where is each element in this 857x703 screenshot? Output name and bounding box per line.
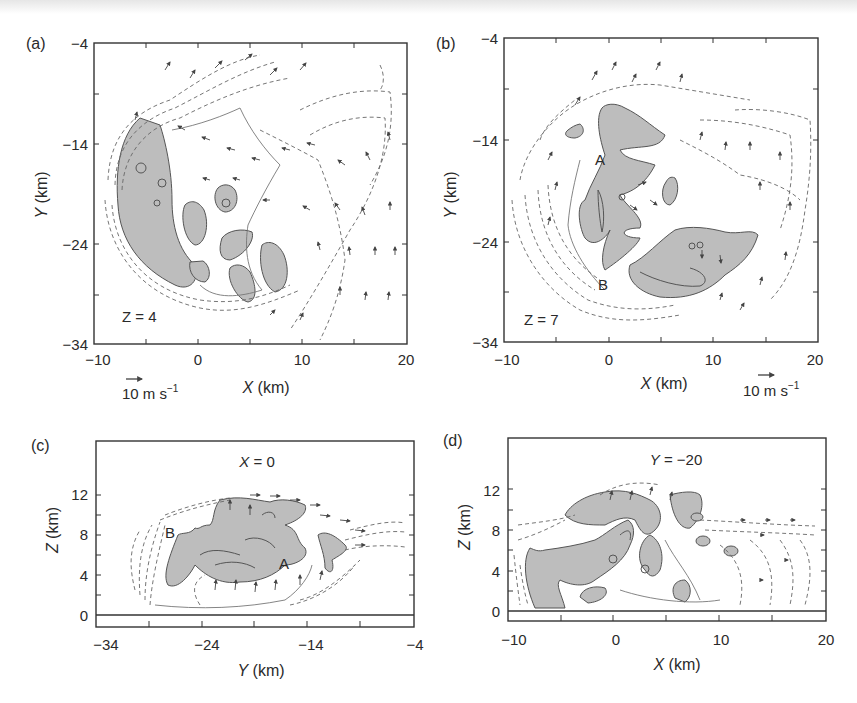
figure: (a) −4 −14 −24 −34 −10 0 10 20 X (km) Y … [0,0,857,703]
c-xtick-3: −4 [406,636,423,653]
a-xtick-0: −10 [85,351,110,368]
a-level-annotation: Z = 4 [122,308,157,325]
d-yaxis-title: Z (km) [456,504,473,551]
b-xtick-2: 10 [705,351,722,368]
d-xtick-0: −10 [501,631,526,648]
c-xtick-2: −14 [298,636,323,653]
b-xaxis-title: X (km) [639,375,687,392]
panel-a-letter: (a) [26,35,46,52]
b-ytick-bottom: −34 [473,334,498,351]
b-point-a: A [595,151,605,168]
d-plot-content [514,483,815,608]
c-ytick-12: 12 [71,486,88,503]
b-ytick-top: −4 [481,30,498,47]
b-level-annotation: Z = 7 [524,311,559,328]
panel-c-letter: (c) [31,437,50,454]
panel-b: (b) −4 −14 −24 −34 −10 0 10 20 X (km) Y … [436,30,823,399]
d-ytick-4: 4 [492,563,500,580]
b-plot-content [512,62,811,320]
c-xtick-0: −34 [93,636,118,653]
b-xtick-3: 20 [807,351,824,368]
panel-a: (a) −4 −14 −24 −34 −10 0 10 20 X (km) Y … [26,35,414,402]
d-section-title: Y = −20 [650,451,703,468]
panel-d-letter: (d) [443,432,463,449]
b-yaxis-title: Y (km) [442,171,459,218]
a-vector-scale: 10 m s−1 [122,383,179,402]
c-section-title: X = 0 [238,453,274,470]
a-xtick-1: 0 [194,351,202,368]
a-plot-content [105,54,395,340]
a-xtick-3: 20 [398,351,415,368]
d-ytick-8: 8 [492,522,500,539]
d-xtick-2: 10 [713,631,730,648]
d-xaxis-title: X (km) [652,656,700,673]
c-yaxis-title: Z (km) [44,507,61,554]
b-point-b: B [598,276,608,293]
c-point-a: A [279,555,289,572]
a-xaxis-title: X (km) [241,379,289,396]
b-xtick-0: −10 [494,351,519,368]
b-xtick-1: 0 [605,351,613,368]
b-ytick-24: −24 [473,234,498,251]
panel-d: (d) 12 8 4 0 −10 0 10 20 X (km) Z (km) Y… [443,432,834,673]
a-ytick-14: −14 [63,136,88,153]
b-ytick-14: −14 [473,132,498,149]
c-xaxis-title: Y (km) [237,662,284,679]
a-ytick-24: −24 [63,236,88,253]
d-xtick-3: 20 [818,631,835,648]
c-plot-content [131,495,405,608]
b-vector-scale: 10 m s−1 [743,380,800,399]
a-ytick-top: −4 [71,35,88,52]
a-ytick-bottom: −34 [63,336,88,353]
d-ytick-0: 0 [492,603,500,620]
c-point-b: B [165,524,175,541]
c-ytick-8: 8 [80,526,88,543]
a-yaxis-title: Y (km) [33,171,50,218]
d-xtick-1: 0 [612,631,620,648]
c-ytick-4: 4 [80,567,88,584]
d-ytick-12: 12 [483,482,500,499]
a-xtick-2: 10 [294,351,311,368]
panel-c: (c) 12 8 4 0 −34 −24 −14 −4 Y (km) Z (km… [31,437,424,679]
panel-b-letter: (b) [436,35,456,52]
c-xtick-1: −24 [194,636,219,653]
c-ytick-0: 0 [80,607,88,624]
